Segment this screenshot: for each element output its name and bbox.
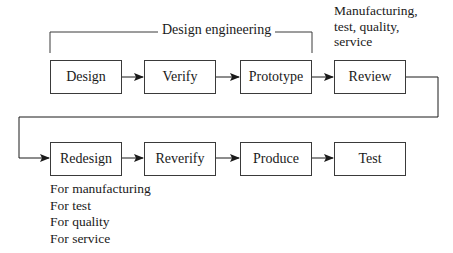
redesign-note: For service (50, 231, 151, 248)
node-test: Test (334, 142, 406, 176)
node-prototype: Prototype (240, 60, 312, 94)
redesign-note: For quality (50, 214, 151, 231)
redesign-note: For test (50, 198, 151, 215)
node-reverify: Reverify (144, 142, 216, 176)
node-verify: Verify (144, 60, 216, 94)
redesign-notes: For manufacturing For test For quality F… (50, 181, 151, 247)
node-redesign: Redesign (50, 142, 122, 176)
redesign-note: For manufacturing (50, 181, 151, 198)
review-note: Manufacturing, test, quality, service (334, 3, 418, 50)
review-note-line: Manufacturing, (334, 3, 418, 19)
review-note-line: test, quality, (334, 19, 418, 35)
bracket-label: Design engineering (158, 22, 275, 38)
node-review: Review (334, 60, 406, 94)
node-design: Design (50, 60, 122, 94)
review-note-line: service (334, 34, 418, 50)
node-produce: Produce (240, 142, 312, 176)
